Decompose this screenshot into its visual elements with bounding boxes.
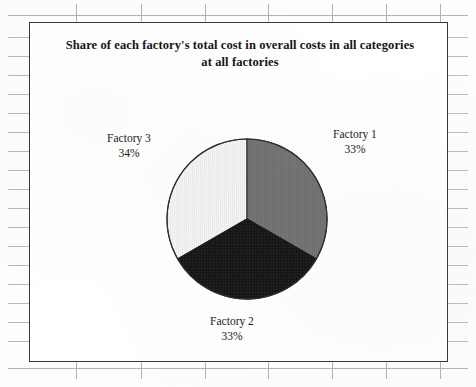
tick-mark-left bbox=[8, 37, 30, 38]
tick-mark-left bbox=[8, 132, 30, 133]
pie-label-factory2-name: Factory 2 bbox=[210, 315, 254, 327]
rule-line-top bbox=[8, 15, 468, 16]
scanned-page: Share of each factory's total cost in ov… bbox=[0, 0, 476, 387]
tick-mark-right bbox=[448, 265, 468, 266]
tick-mark-right bbox=[448, 189, 468, 190]
pie-chart-svg bbox=[165, 136, 329, 302]
tick-mark-left bbox=[8, 265, 30, 266]
tick-mark-right bbox=[448, 151, 468, 152]
tick-mark-left bbox=[8, 341, 30, 342]
tick-mark-left bbox=[8, 151, 30, 152]
pie-label-factory3: Factory 3 34% bbox=[86, 131, 172, 161]
tick-mark-left bbox=[8, 189, 30, 190]
tick-mark-right bbox=[448, 56, 468, 57]
tick-mark-right bbox=[448, 132, 468, 133]
tick-mark-left bbox=[8, 75, 30, 76]
tick-mark-right bbox=[448, 246, 468, 247]
pie-label-factory1: Factory 1 33% bbox=[312, 127, 398, 157]
tick-mark-right bbox=[448, 322, 468, 323]
tick-mark-right bbox=[448, 113, 468, 114]
tick-mark-right bbox=[448, 284, 468, 285]
pie-label-factory3-percent: 34% bbox=[86, 146, 172, 161]
tick-mark-right bbox=[448, 170, 468, 171]
tick-mark-left bbox=[8, 246, 30, 247]
tick-mark-left bbox=[8, 113, 30, 114]
tick-mark-left bbox=[8, 227, 30, 228]
rule-line-bottom bbox=[8, 368, 468, 369]
tick-mark-right bbox=[448, 227, 468, 228]
tick-mark-right bbox=[448, 37, 468, 38]
tick-mark-left bbox=[8, 56, 30, 57]
tick-mark-right bbox=[448, 94, 468, 95]
tick-mark-left bbox=[8, 322, 30, 323]
tick-mark-left bbox=[8, 208, 30, 209]
tick-mark-left bbox=[8, 170, 30, 171]
pie-label-factory1-name: Factory 1 bbox=[333, 128, 377, 140]
tick-mark-left bbox=[8, 303, 30, 304]
pie-label-factory1-percent: 33% bbox=[312, 142, 398, 157]
tick-mark-right bbox=[448, 341, 468, 342]
tick-mark-right bbox=[448, 303, 468, 304]
pie-label-factory2-percent: 33% bbox=[182, 329, 282, 344]
tick-mark-right bbox=[448, 75, 468, 76]
pie-label-factory3-name: Factory 3 bbox=[107, 132, 151, 144]
tick-mark-right bbox=[448, 208, 468, 209]
pie-chart: Factory 1 33% Factory 3 34% Factory 2 33… bbox=[30, 23, 449, 363]
tick-mark-left bbox=[8, 94, 30, 95]
pie-label-factory2: Factory 2 33% bbox=[182, 314, 282, 344]
tick-mark-left bbox=[8, 284, 30, 285]
chart-frame: Share of each factory's total cost in ov… bbox=[29, 22, 448, 362]
